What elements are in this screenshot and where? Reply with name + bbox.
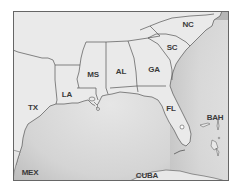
label-ms: MS xyxy=(87,71,99,79)
label-cuba: CUBA xyxy=(136,172,158,180)
label-la: LA xyxy=(62,91,72,99)
label-ga: GA xyxy=(148,66,160,74)
map-frame xyxy=(13,11,229,181)
label-sc: SC xyxy=(167,44,178,52)
map-graphic xyxy=(13,11,229,181)
label-fl: FL xyxy=(166,105,175,113)
label-bah: BAH xyxy=(207,114,224,122)
label-nc: NC xyxy=(182,21,193,29)
label-mex: MEX xyxy=(22,169,39,177)
label-tx: TX xyxy=(28,104,38,112)
label-al: AL xyxy=(116,68,126,76)
lake-okeechobee xyxy=(180,125,184,129)
